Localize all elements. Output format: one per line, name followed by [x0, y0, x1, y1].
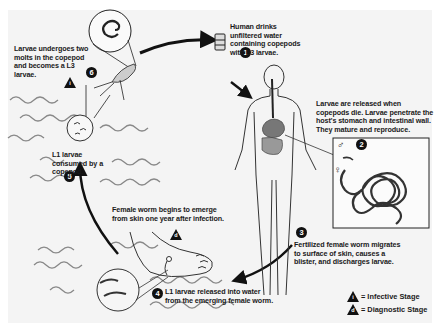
step-2-badge: 2	[356, 139, 367, 150]
diagnostic-triangle-icon: d	[347, 304, 359, 315]
legend-infective: i = Infective Stage	[347, 291, 420, 302]
emergence-note: Female worm begins to emerge from skin o…	[112, 206, 232, 223]
step-5-text: L1 larvae consumed by a copepod.	[52, 151, 110, 177]
pointer-line	[94, 95, 110, 118]
legend-infective-label: = Infective Stage	[361, 292, 420, 301]
step-3-badge: 3	[296, 227, 307, 238]
infective-triangle-icon: i	[347, 291, 359, 302]
step-2-text: Larvae are released when copepods die. L…	[316, 100, 434, 134]
digestive-system	[262, 119, 285, 155]
l1-larvae-in-water-circle	[67, 115, 93, 141]
step-4-badge: 4	[152, 288, 163, 299]
legend-diagnostic-label: = Diagnostic Stage	[361, 305, 427, 314]
adult-worms-box	[333, 138, 429, 228]
female-symbol: ♀	[334, 166, 341, 175]
step-6-text: Larvae undergoes two molts in the copepo…	[14, 45, 89, 79]
step-1-text: Human drinks unfiltered water containing…	[230, 23, 310, 57]
male-symbol: ♂	[337, 141, 344, 150]
water-cup-icon	[215, 34, 225, 50]
legend-diagnostic: d = Diagnostic Stage	[347, 304, 427, 315]
step-3-text: Fertilized female worm migrates to surfa…	[294, 241, 404, 267]
diagnostic-stage-marker-icon: d	[170, 229, 182, 240]
step-4-text: L1 larvae released into water from the e…	[165, 288, 275, 305]
copepod	[94, 64, 136, 100]
l3-larva-magnified	[89, 10, 136, 68]
